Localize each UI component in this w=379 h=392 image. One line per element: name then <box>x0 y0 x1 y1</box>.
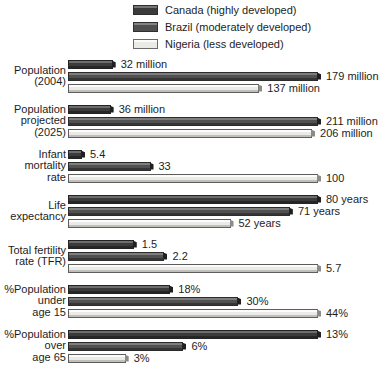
bar-row: 100 <box>68 172 359 184</box>
bar-group: Populationprojected(2025)36 million211 m… <box>0 103 359 148</box>
grouped-bar-chart: Population(2004)32 million179 million137… <box>0 58 359 373</box>
bar-row: 179 million <box>68 70 359 82</box>
bar-value-label: 80 years <box>326 194 368 205</box>
legend-item-canada: Canada (highly developed) <box>133 2 359 17</box>
legend-swatch-brazil <box>133 22 158 32</box>
bar-row: 44% <box>68 307 359 319</box>
bar-group-bars: 5.433100 <box>68 148 359 184</box>
bar-row: 3% <box>68 352 359 364</box>
bar-brazil[interactable] <box>68 297 238 306</box>
bar-value-label: 6% <box>191 341 207 352</box>
bar-group-label-line: (2004) <box>0 76 66 88</box>
bar-value-label: 2.2 <box>172 251 187 262</box>
bar-canada[interactable] <box>68 150 82 159</box>
bar-row: 206 million <box>68 127 359 139</box>
bar-row: 6% <box>68 340 359 352</box>
bar-end-cap <box>317 196 321 203</box>
bar-end-cap <box>317 265 321 272</box>
bar-canada[interactable] <box>68 240 134 249</box>
bar-end-cap <box>110 106 114 113</box>
bar-value-label: 36 million <box>119 104 165 115</box>
bar-group-bars: 36 million211 million206 million <box>68 103 359 139</box>
bar-brazil[interactable] <box>68 252 164 261</box>
bar-row: 52 years <box>68 217 359 229</box>
bar-nigeria[interactable] <box>68 354 126 363</box>
bar-group-bars: 13%6%3% <box>68 328 359 364</box>
bar-value-label: 206 million <box>320 128 373 139</box>
bar-canada[interactable] <box>68 195 318 204</box>
bar-group: Lifeexpectancy80 years71 years52 years <box>0 193 359 238</box>
bar-row: 32 million <box>68 58 359 70</box>
bar-group: %Populationunderage 1518%30%44% <box>0 283 359 328</box>
bar-value-label: 3% <box>134 353 150 364</box>
bar-value-label: 211 million <box>326 116 378 127</box>
bar-group-label-line: rate (TFR) <box>0 256 66 268</box>
bar-group-label-line: age 65 <box>0 352 66 364</box>
legend-item-nigeria: Nigeria (less developed) <box>133 36 359 51</box>
bar-brazil[interactable] <box>68 207 290 216</box>
bar-brazil[interactable] <box>68 117 318 126</box>
legend-label-nigeria: Nigeria (less developed) <box>165 38 284 50</box>
bar-end-cap <box>317 118 321 125</box>
bar-group: %Populationoverage 6513%6%3% <box>0 328 359 373</box>
bar-brazil[interactable] <box>68 72 318 81</box>
bar-end-cap <box>169 286 173 293</box>
bar-end-cap <box>289 208 293 215</box>
bar-group-label: %Populationunderage 15 <box>0 284 66 319</box>
bar-group-bars: 32 million179 million137 million <box>68 58 359 94</box>
bar-nigeria[interactable] <box>68 84 259 93</box>
bar-value-label: 44% <box>326 308 348 319</box>
bar-group-label-line: rate <box>0 172 66 184</box>
bar-group-label: Lifeexpectancy <box>0 200 66 223</box>
bar-row: 1.5 <box>68 238 359 250</box>
bar-value-label: 13% <box>326 329 348 340</box>
bar-group-label-line: age 15 <box>0 307 66 319</box>
chart-legend: Canada (highly developed) Brazil (modera… <box>133 2 359 53</box>
bar-group-label: Infantmortalityrate <box>0 149 66 184</box>
bar-end-cap <box>230 220 234 227</box>
bar-end-cap <box>311 130 315 137</box>
bar-group-bars: 18%30%44% <box>68 283 359 319</box>
bar-group-label: %Populationoverage 65 <box>0 329 66 364</box>
bar-end-cap <box>163 253 167 260</box>
bar-group-label: Total fertilityrate (TFR) <box>0 245 66 268</box>
bar-value-label: 100 <box>326 173 344 184</box>
bar-nigeria[interactable] <box>68 219 231 228</box>
bar-nigeria[interactable] <box>68 309 318 318</box>
bar-value-label: 137 million <box>267 83 320 94</box>
bar-group-label: Population(2004) <box>0 65 66 88</box>
bar-canada[interactable] <box>68 105 111 114</box>
legend-label-canada: Canada (highly developed) <box>165 4 296 16</box>
bar-group: Population(2004)32 million179 million137… <box>0 58 359 103</box>
bar-nigeria[interactable] <box>68 264 318 273</box>
bar-value-label: 5.4 <box>90 149 105 160</box>
bar-nigeria[interactable] <box>68 174 318 183</box>
bar-row: 137 million <box>68 82 359 94</box>
bar-brazil[interactable] <box>68 162 151 171</box>
bar-end-cap <box>150 163 154 170</box>
bar-value-label: 1.5 <box>142 239 157 250</box>
bar-nigeria[interactable] <box>68 129 312 138</box>
bar-row: 18% <box>68 283 359 295</box>
bar-row: 80 years <box>68 193 359 205</box>
bar-group-label-line: (2025) <box>0 127 66 139</box>
bar-value-label: 179 million <box>326 71 379 82</box>
bar-end-cap <box>237 298 241 305</box>
bar-group-label: Populationprojected(2025) <box>0 104 66 139</box>
bar-canada[interactable] <box>68 330 318 339</box>
bar-row: 30% <box>68 295 359 307</box>
legend-label-brazil: Brazil (moderately developed) <box>165 21 311 33</box>
bar-canada[interactable] <box>68 285 170 294</box>
bar-canada[interactable] <box>68 60 113 69</box>
bar-end-cap <box>317 73 321 80</box>
bar-row: 5.7 <box>68 262 359 274</box>
bar-value-label: 33 <box>159 161 171 172</box>
bar-value-label: 30% <box>246 296 268 307</box>
legend-swatch-canada <box>133 5 158 15</box>
bar-row: 2.2 <box>68 250 359 262</box>
bar-end-cap <box>112 61 116 68</box>
bar-value-label: 71 years <box>298 206 340 217</box>
bar-group-bars: 80 years71 years52 years <box>68 193 359 229</box>
bar-value-label: 32 million <box>121 59 167 70</box>
bar-brazil[interactable] <box>68 342 183 351</box>
